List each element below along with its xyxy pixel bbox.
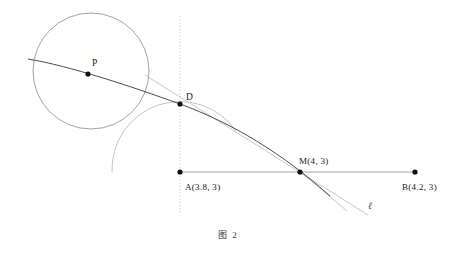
secant-stub-from-m (298, 170, 347, 211)
arc-centered-at-a (112, 102, 236, 172)
point-d-label: D (186, 92, 193, 102)
point-m-marker (297, 169, 302, 174)
geometry-canvas: P D A(3.8, 3) M(4, 3) B(4.2, 3) ℓ 图 2 (0, 0, 474, 256)
tangent-line-l (145, 75, 368, 215)
point-b-marker (412, 169, 417, 174)
circle-through-p (33, 13, 149, 129)
line-l-label: ℓ (368, 200, 372, 211)
figure-caption: 图 2 (218, 230, 238, 240)
point-p-label: P (92, 58, 97, 68)
main-curve-through-p-d-m (28, 59, 330, 196)
point-m-label: M(4, 3) (299, 156, 329, 166)
point-p-marker (85, 71, 90, 76)
point-a-label: A(3.8, 3) (185, 182, 220, 192)
point-a-marker (177, 169, 182, 174)
point-b-label: B(4.2, 3) (402, 182, 437, 192)
point-d-marker (177, 101, 182, 106)
geometry-figure: P D A(3.8, 3) M(4, 3) B(4.2, 3) ℓ 图 2 (0, 0, 474, 256)
